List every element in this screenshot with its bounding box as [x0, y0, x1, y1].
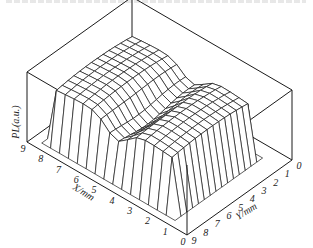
y-tick-label: 8: [203, 227, 208, 238]
x-tick-label: 2: [145, 215, 150, 226]
y-tick-label: 9: [192, 235, 197, 246]
y-tick-label: 2: [273, 177, 278, 188]
x-tick-label: 4: [109, 195, 114, 206]
wireframe-surface: [42, 37, 263, 221]
y-tick-label: 7: [215, 218, 221, 229]
z-axis-label: PL(a.u.): [10, 105, 22, 140]
x-tick-label: 3: [126, 205, 132, 216]
x-tick-label: 9: [21, 143, 26, 154]
surface-plot: 9876543210 9876543210 PL(a.u.) X/mm Y/mm: [0, 0, 313, 248]
y-tick-label: 0: [297, 160, 302, 171]
x-tick-label: 1: [163, 226, 168, 237]
x-tick-label: 8: [38, 153, 43, 164]
y-tick-label: 1: [285, 168, 290, 179]
y-tick-label: 3: [261, 185, 267, 196]
y-tick-label: 6: [227, 210, 232, 221]
x-tick-label: 7: [56, 164, 62, 175]
x-tick-label: 0: [181, 236, 186, 247]
